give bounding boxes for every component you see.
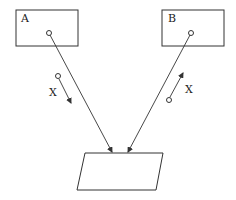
motion-left-origin-icon <box>56 74 61 79</box>
motion-left-arrow-icon <box>59 79 71 103</box>
ray-a-to-target-arrow-icon <box>50 35 112 152</box>
motion-right: X <box>167 73 194 103</box>
target-parallelogram <box>77 153 163 190</box>
source-point-a-icon <box>47 31 52 36</box>
box-b: B <box>162 10 224 46</box>
motion-right-label: X <box>185 83 193 96</box>
motion-right-arrow-icon <box>170 73 183 97</box>
motion-right-origin-icon <box>167 98 172 103</box>
ray-b-to-target-arrow-icon <box>128 35 190 152</box>
source-point-b-icon <box>189 31 194 36</box>
motion-left-label: X <box>49 86 57 99</box>
box-a: A <box>16 10 78 46</box>
box-a-label: A <box>20 12 30 25</box>
motion-left: X <box>49 74 71 104</box>
diagram-canvas: A B X X <box>0 0 236 200</box>
box-b-label: B <box>168 12 176 25</box>
